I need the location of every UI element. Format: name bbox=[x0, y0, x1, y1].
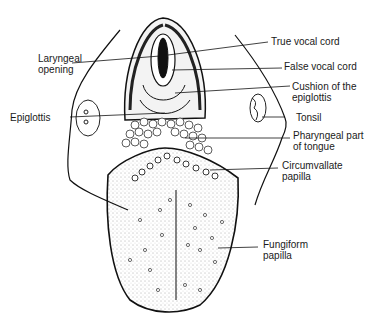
label-false-vocal-cord: False vocal cord bbox=[284, 61, 357, 72]
label-epiglottis: Epiglottis bbox=[10, 112, 51, 123]
label-pharyngeal-part-of-tongue: Pharyngeal part of tongue bbox=[293, 130, 364, 152]
label-circumvallate-papilla: Circumvallate papilla bbox=[282, 160, 343, 182]
label-laryngeal-opening: Laryngeal opening bbox=[38, 53, 82, 75]
label-tonsil: Tonsil bbox=[296, 112, 322, 123]
larynx bbox=[125, 18, 206, 120]
tongue-body bbox=[107, 148, 238, 312]
label-fungiform-papilla: Fungiform papilla bbox=[263, 239, 308, 261]
label-cushion-of-epiglottis: Cushion of the epiglottis bbox=[292, 81, 357, 103]
label-true-vocal-cord: True vocal cord bbox=[271, 36, 340, 47]
